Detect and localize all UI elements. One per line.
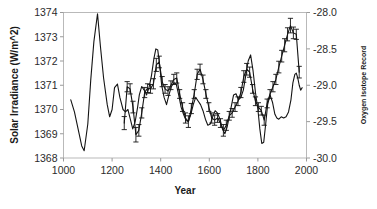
plot-frame (64, 13, 307, 159)
solar-irradiance-line (71, 14, 302, 151)
right-tick-label: -28.5 (313, 43, 337, 55)
error-bar (139, 108, 144, 118)
left-tick-label: 1369 (34, 128, 58, 140)
x-axis-ticks (64, 158, 307, 162)
right-tick-label: -29.5 (313, 115, 337, 127)
solar-irradiance-isotope-chart: 1368136913701371137213731374 -30.0-29.5-… (0, 0, 377, 209)
right-tick-label: -28.0 (313, 6, 337, 18)
x-tick-label: 2000 (295, 164, 319, 176)
error-bar (154, 58, 159, 71)
left-axis-tick-labels: 1368136913701371137213731374 (34, 6, 58, 164)
x-axis-tick-labels: 100012001400160018002000 (52, 164, 319, 176)
error-bar (276, 61, 281, 73)
x-axis-title: Year (174, 185, 195, 196)
error-bar (206, 103, 211, 112)
error-bar (200, 75, 205, 84)
series-solar-irradiance (71, 14, 302, 151)
error-bar (125, 82, 130, 92)
error-bar (136, 125, 141, 137)
series-oxygen-isotope-record (122, 18, 302, 142)
left-tick-label: 1372 (34, 55, 58, 67)
error-bar (127, 84, 132, 94)
x-tick-label: 1800 (246, 164, 270, 176)
error-bar (133, 127, 138, 142)
x-tick-label: 1200 (100, 164, 124, 176)
left-axis-ticks (60, 13, 64, 159)
left-tick-label: 1370 (34, 103, 58, 115)
error-bar (247, 67, 252, 77)
right-axis-tick-labels: -30.0-29.5-29.0-28.5-28.0 (313, 6, 337, 164)
left-tick-label: 1371 (34, 79, 58, 91)
y-axis-title: Solar Irradiance (W/m^2) (9, 26, 20, 144)
error-bar (203, 90, 208, 99)
error-bar (122, 117, 127, 130)
left-tick-label: 1374 (34, 6, 58, 18)
left-tick-label: 1373 (34, 31, 58, 43)
right-tick-label: -30.0 (313, 152, 337, 164)
chart-canvas: 1368136913701371137213731374 -30.0-29.5-… (0, 0, 377, 209)
error-bar (294, 29, 299, 39)
x-tick-label: 1400 (149, 164, 173, 176)
x-tick-label: 1600 (198, 164, 222, 176)
left-tick-label: 1368 (34, 152, 58, 164)
y2-axis-title: Oxygen Isotope Record (360, 46, 368, 125)
right-axis-ticks (307, 13, 311, 159)
error-bar (130, 101, 135, 113)
right-tick-label: -29.0 (313, 79, 337, 91)
x-tick-label: 1000 (52, 164, 76, 176)
